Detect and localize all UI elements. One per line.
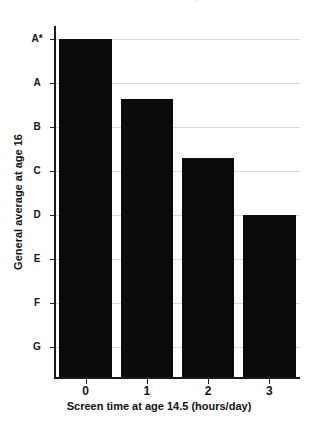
x-axis-tick-label: 3 xyxy=(249,384,289,398)
y-axis-title: General average at age 16 xyxy=(12,102,24,302)
x-axis-tick-label: 0 xyxy=(66,384,106,398)
y-axis-tick-label: C xyxy=(26,166,48,176)
y-axis-tick-mark xyxy=(50,127,55,128)
y-axis-tick-label: G xyxy=(26,342,48,352)
x-axis-spine xyxy=(54,377,300,379)
chart-figure: Screen time and school grades A*ABCDEFG … xyxy=(0,0,318,426)
y-axis-tick-mark xyxy=(50,303,55,304)
x-axis-title: Screen time at age 14.5 (hours/day) xyxy=(0,400,318,412)
y-axis-tick-label: A xyxy=(26,78,48,88)
y-axis-tick-labels: A*ABCDEFG xyxy=(24,0,48,426)
y-axis-tick-mark xyxy=(50,83,55,84)
y-axis-spine xyxy=(54,26,56,378)
y-axis-tick-mark xyxy=(50,39,55,40)
y-axis-tick-mark xyxy=(50,171,55,172)
bar[interactable] xyxy=(121,99,173,378)
y-axis-tick-label: F xyxy=(26,298,48,308)
y-axis-tick-label: A* xyxy=(26,34,48,44)
y-axis-tick-label: D xyxy=(26,210,48,220)
bar[interactable] xyxy=(59,39,111,378)
bar[interactable] xyxy=(182,158,234,378)
x-axis-tick-label: 2 xyxy=(188,384,228,398)
y-axis-tick-label: E xyxy=(26,254,48,264)
y-axis-tick-mark xyxy=(50,347,55,348)
y-axis-tick-mark xyxy=(50,259,55,260)
x-axis-tick-label: 1 xyxy=(127,384,167,398)
y-axis-tick-label: B xyxy=(26,122,48,132)
bar-series xyxy=(55,26,300,378)
y-axis-tick-mark xyxy=(50,215,55,216)
bar[interactable] xyxy=(243,215,295,378)
plot-area xyxy=(55,26,300,378)
